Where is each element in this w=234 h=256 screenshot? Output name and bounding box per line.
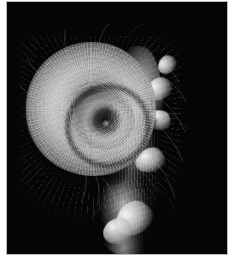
photo-frame — [0, 0, 234, 256]
film-grain — [7, 2, 227, 254]
photograph — [7, 2, 227, 254]
